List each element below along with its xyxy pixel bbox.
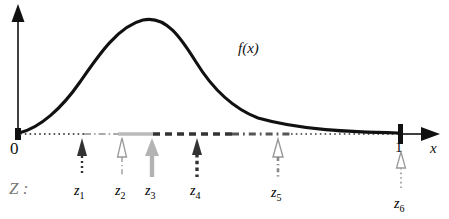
arrow-z5-hollow — [273, 139, 283, 157]
interval-label-Z: Z : — [9, 180, 28, 197]
z2-sub: 2 — [120, 190, 125, 201]
y-axis — [12, 4, 25, 140]
z1-sub: 1 — [79, 190, 84, 201]
axis-one-label: 1 — [395, 140, 403, 155]
marker-label-z3: z3 — [145, 184, 155, 201]
z3-sub: 3 — [150, 190, 155, 201]
marker-z4[interactable] — [192, 138, 202, 177]
curve-label-fx: f(x) — [238, 41, 259, 56]
marker-z1[interactable] — [77, 138, 87, 176]
plot-canvas — [0, 0, 449, 219]
z5-sub: 5 — [276, 192, 281, 203]
arrow-z2-hollow — [118, 138, 127, 157]
figure-density-plot: f(x) 0 1 x Z : z1 z2 z3 z4 z5 z6 — [0, 0, 449, 219]
marker-label-z2: z2 — [115, 184, 125, 201]
marker-z2[interactable] — [118, 138, 127, 176]
marker-label-z1: z1 — [74, 184, 84, 201]
marker-z6[interactable] — [397, 152, 406, 190]
arrow-z4-filled — [192, 138, 202, 155]
axis-origin-label: 0 — [10, 140, 19, 157]
z4-sub: 4 — [195, 190, 200, 201]
axis-x-label: x — [430, 141, 437, 156]
arrow-z1-filled — [77, 138, 87, 156]
marker-label-z5: z5 — [271, 186, 281, 203]
marker-z3[interactable] — [145, 138, 159, 177]
marker-z5[interactable] — [273, 139, 283, 179]
z6-sub: 6 — [399, 203, 404, 214]
arrow-z3-filled — [145, 138, 159, 156]
marker-label-z6: z6 — [394, 197, 404, 214]
marker-label-z4: z4 — [190, 184, 200, 201]
density-curve — [19, 19, 398, 133]
